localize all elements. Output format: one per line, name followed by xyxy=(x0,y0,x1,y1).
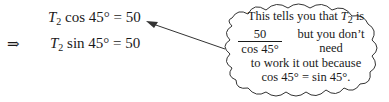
fraction-denominator: cos 45° xyxy=(241,42,278,56)
implies-symbol: ⇒ xyxy=(7,35,20,53)
equation-cos: T2 cos 45° = 50 xyxy=(48,9,141,27)
pointer-line xyxy=(150,23,225,49)
equation-rhs: cos 45° = 50 xyxy=(61,9,140,25)
callout-text: This tells you that T2 is 50 cos 45° but… xyxy=(236,9,376,84)
fraction-numerator: 50 xyxy=(238,27,282,42)
equation-rhs: sin 45° = 50 xyxy=(63,35,140,51)
callout-line-2: but you don’t need xyxy=(286,27,376,55)
callout-fraction-row: 50 cos 45° but you don’t need xyxy=(238,27,376,56)
variable-t: T xyxy=(341,9,348,23)
callout-line-3: to work it out because xyxy=(236,56,376,70)
fraction: 50 cos 45° xyxy=(238,27,282,56)
callout-line-1: This tells you that T2 is xyxy=(236,9,376,27)
equation-sin: T2 sin 45° = 50 xyxy=(50,35,140,53)
callout-line-4: cos 45° = sin 45°. xyxy=(236,70,376,84)
arrowhead-icon xyxy=(146,21,158,28)
text: This tells you that xyxy=(248,9,341,23)
text: is xyxy=(353,9,364,23)
